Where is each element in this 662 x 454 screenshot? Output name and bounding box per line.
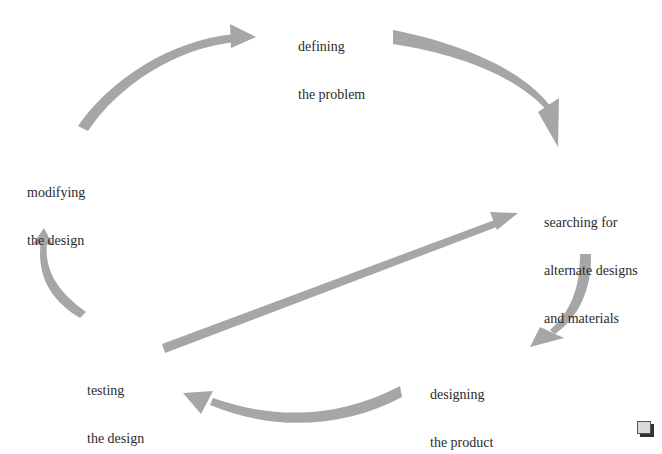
page-corner-icon	[637, 421, 651, 434]
step-label-line: the problem	[298, 87, 365, 103]
arrow-define-to-search	[393, 30, 559, 147]
arrow-test-to-search	[162, 212, 518, 353]
step-label-line: testing	[87, 383, 144, 399]
step-label-line: modifying	[27, 185, 85, 201]
step-label-line: the product	[430, 435, 493, 451]
arrow-design-to-test	[183, 386, 402, 423]
step-label-line: designing	[430, 387, 493, 403]
step-label-line: alternate designs	[544, 263, 638, 279]
arrow-modify-to-define	[78, 24, 256, 131]
step-label-line: and materials	[544, 311, 638, 327]
step-label-line: the design	[27, 233, 85, 249]
step-searching-alternates: searching for alternate designs and mate…	[544, 183, 638, 343]
step-modifying-the-design: modifying the design	[27, 153, 85, 265]
step-label-line: searching for	[544, 215, 638, 231]
step-label-line: the design	[87, 431, 144, 447]
step-designing-the-product: designing the product	[430, 355, 493, 454]
step-defining-the-problem: defining the problem	[298, 7, 365, 119]
step-label-line: defining	[298, 39, 365, 55]
step-testing-the-design: testing the design	[87, 351, 144, 454]
